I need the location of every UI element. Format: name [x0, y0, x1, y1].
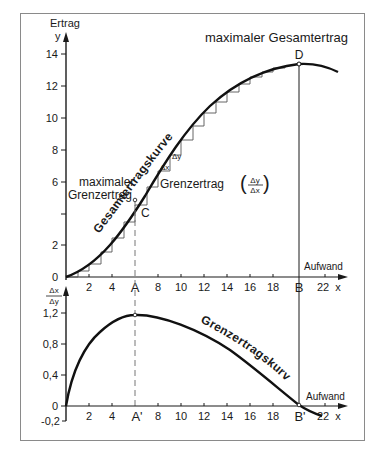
- staircase-steps: [66, 66, 285, 277]
- top-y-var-label: y: [55, 30, 61, 42]
- point-a-prime-label: A': [131, 409, 142, 424]
- svg-text:0: 0: [52, 400, 58, 412]
- top-y-ticks: 14 12 10 8 6 2 0: [46, 48, 66, 283]
- top-x-tick-labels: 2 4 A 8 10 12 14 16 18 B 22 x: [86, 280, 341, 295]
- point-b-prime-marker: [297, 403, 301, 407]
- svg-text:18: 18: [267, 410, 279, 422]
- fraction-numerator: Δy: [250, 176, 259, 185]
- bottom-x-arrow-icon: [338, 403, 348, 409]
- svg-text:x: x: [335, 281, 341, 293]
- svg-text:14: 14: [221, 410, 233, 422]
- bottom-x-axis-label: Aufwand: [306, 391, 345, 402]
- svg-text:12: 12: [198, 281, 210, 293]
- bottom-y-tick-labels: 1,2 0,8 0,4 0 -0,2: [41, 307, 60, 427]
- delta-x-label: Δx: [160, 163, 169, 172]
- y-tick-label: 12: [46, 80, 58, 92]
- y-tick-label: 10: [46, 112, 58, 124]
- bottom-x-tick-labels: 2 4 A' 8 10 12 14 16 18 B' 22 x: [86, 409, 341, 424]
- point-c-label: C: [141, 206, 150, 220]
- fraction-denominator: Δx: [250, 186, 259, 195]
- paren-close: ): [263, 172, 270, 194]
- paren-open: (: [240, 172, 247, 194]
- svg-text:x: x: [335, 410, 341, 422]
- y-tick-label: 2: [52, 239, 58, 251]
- svg-text:16: 16: [244, 281, 256, 293]
- svg-text:8: 8: [155, 281, 161, 293]
- y-tick-label: 0: [52, 271, 58, 283]
- marginal-yield-label: Grenzertrag: [160, 177, 224, 191]
- point-d-marker: [297, 62, 301, 66]
- bottom-y-ticks: [61, 313, 66, 406]
- top-chart: 14 12 10 8 6 2 0 2 4 A 8 10 12 14: [46, 17, 348, 406]
- svg-text:22: 22: [317, 281, 329, 293]
- top-y-axis-label: Ertrag: [50, 17, 80, 29]
- svg-text:4: 4: [109, 281, 115, 293]
- svg-text:18: 18: [267, 281, 279, 293]
- svg-text:0,8: 0,8: [43, 338, 58, 350]
- economics-diagram: 14 12 10 8 6 2 0 2 4 A 8 10 12 14: [0, 0, 383, 460]
- point-a-prime-marker: [133, 313, 137, 317]
- max-marginal-label-line1: maximaler: [79, 175, 134, 189]
- svg-text:14: 14: [221, 281, 233, 293]
- total-product-curve: [66, 64, 338, 277]
- bottom-y-label-denominator: Δy: [49, 297, 58, 306]
- svg-text:2: 2: [86, 410, 92, 422]
- svg-text:10: 10: [175, 410, 187, 422]
- y-tick-label: 8: [52, 144, 58, 156]
- svg-text:-0,2: -0,2: [41, 415, 60, 427]
- point-d-label: D: [295, 48, 304, 62]
- top-y-arrow-icon: [63, 32, 69, 42]
- point-c-marker: [133, 198, 137, 202]
- max-marginal-label-line2: Grenzertrag: [68, 188, 132, 202]
- y-tick-label: 14: [46, 48, 58, 60]
- y-tick-label: 6: [52, 176, 58, 188]
- max-total-yield-title: maximaler Gesamtertrag: [205, 30, 348, 45]
- svg-text:1,2: 1,2: [43, 307, 58, 319]
- svg-text:12: 12: [198, 410, 210, 422]
- top-x-axis-label: Aufwand: [304, 261, 343, 272]
- point-b-prime-label: B': [294, 409, 305, 424]
- svg-text:16: 16: [244, 410, 256, 422]
- top-x-arrow-icon: [338, 274, 348, 280]
- svg-text:8: 8: [155, 410, 161, 422]
- bottom-y-label-numerator: Δx: [49, 286, 58, 295]
- delta-y-label: Δy: [172, 152, 181, 161]
- svg-text:0,4: 0,4: [43, 369, 58, 381]
- svg-text:4: 4: [109, 410, 115, 422]
- svg-text:2: 2: [86, 281, 92, 293]
- bottom-y-arrow-icon: [63, 286, 69, 296]
- svg-text:10: 10: [175, 281, 187, 293]
